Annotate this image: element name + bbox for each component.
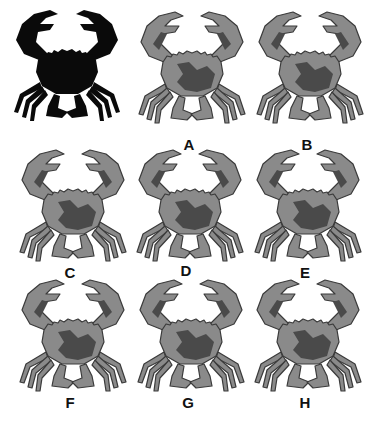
crab-icon: [243, 272, 373, 397]
crab-silhouette-icon: [2, 2, 132, 127]
option-a-crab[interactable]: [127, 4, 257, 129]
option-g-label: G: [168, 394, 208, 411]
option-c-crab[interactable]: [8, 142, 138, 267]
reference-silhouette-crab: [2, 2, 132, 127]
option-f-crab[interactable]: [8, 272, 138, 397]
crab-icon: [126, 272, 256, 397]
crab-icon: [127, 4, 257, 129]
option-h-label: H: [285, 394, 325, 411]
option-d-crab[interactable]: [125, 142, 255, 267]
option-h-crab[interactable]: [243, 272, 373, 397]
crab-icon: [8, 142, 138, 267]
crab-icon: [125, 142, 255, 267]
option-f-label: F: [50, 394, 90, 411]
crab-icon: [243, 142, 373, 267]
option-b-crab[interactable]: [245, 4, 375, 129]
crab-icon: [8, 272, 138, 397]
option-e-crab[interactable]: [243, 142, 373, 267]
crab-icon: [245, 4, 375, 129]
option-g-crab[interactable]: [126, 272, 256, 397]
